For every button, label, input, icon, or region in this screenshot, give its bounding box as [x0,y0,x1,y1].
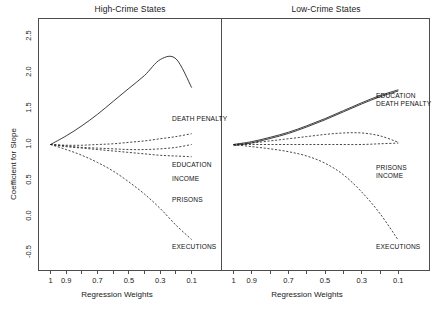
series-label-executions-left: EXECUTIONS [172,243,216,251]
series-line-income [51,145,192,150]
series-label-death-penalty-right: DEATH PENALTY [376,100,431,108]
series-line-death-penalty [234,91,399,146]
x-axis-title-right: Regression Weights [228,290,386,299]
series-label-education-left: EDUCATION [172,161,212,169]
series-line-death-penalty [51,56,192,144]
series-line-education [234,90,399,145]
x-tick-label: 0.7 [277,276,299,285]
series-line-prisons [51,145,192,157]
x-axis-title-left: Regression Weights [38,290,196,299]
series-label-education-right: EDUCATION [376,92,416,100]
series-label-prisons-left: PRISONS [172,196,203,204]
series-label-death-penalty-left: DEATH PENALTY [172,115,227,123]
series-line-prisons [234,133,399,145]
x-tick-label: 0.3 [149,276,171,285]
x-tick-label: 0.5 [314,276,336,285]
plot-canvas [0,0,439,313]
x-tick-label: 0.1 [387,276,409,285]
series-line-executions [51,145,192,240]
series-label-income-left: INCOME [172,175,199,183]
x-tick-label: 0.3 [351,276,373,285]
series-lines-right [234,90,399,240]
figure-root: Coefficient for Slope -0.50.00.51.01.52.… [0,0,439,313]
x-tick-label: 0.7 [87,276,109,285]
panel-frame-left [39,19,222,271]
x-axis-tick-marks [51,271,399,275]
series-line-executions [234,145,399,241]
series-line-education [51,134,192,146]
series-label-income-right: INCOME [376,172,403,180]
series-label-executions-right: EXECUTIONS [376,243,420,251]
series-label-prisons-right: PRISONS [376,164,407,172]
series-line-income [234,143,399,144]
x-tick-label: 0.9 [55,276,77,285]
series-lines-left [51,56,192,239]
x-tick-label: 0.9 [241,276,263,285]
x-tick-label: 0.5 [118,276,140,285]
x-tick-label: 0.1 [181,276,203,285]
